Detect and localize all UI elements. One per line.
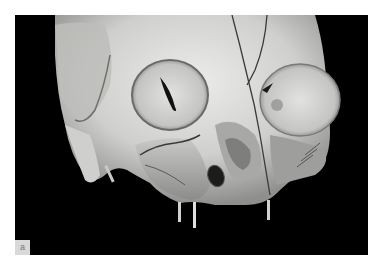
orbit-left (260, 64, 340, 136)
skull-render (15, 15, 368, 255)
fixation-pin (267, 200, 270, 220)
panel-label-box: a (15, 240, 30, 255)
fixation-pin (178, 202, 181, 222)
fixation-pin (193, 202, 196, 228)
panel-label: a (20, 243, 25, 252)
ct-skull-image (15, 15, 368, 255)
